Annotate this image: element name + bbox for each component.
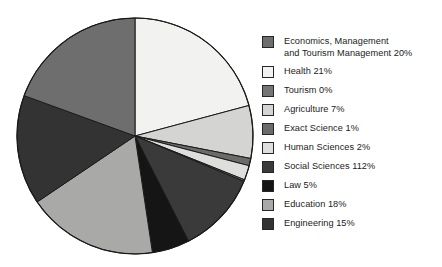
legend-swatch-wrap [262,64,284,78]
legend-item-label: Economics, Management and Tourism Manage… [284,34,412,60]
legend-swatch-economics [262,36,274,48]
legend-item-label: Social Sciences 112% [284,159,375,172]
legend-swatch-tourism [262,85,274,97]
legend-swatch-law [262,180,274,192]
legend-item-label: Law 5% [284,178,317,191]
legend-item[interactable]: Tourism 0% [262,83,442,102]
legend-swatch-engineering [262,218,274,230]
legend-swatch-wrap [262,178,284,192]
legend-swatch-agriculture [262,104,274,116]
legend-item[interactable]: Economics, Management and Tourism Manage… [262,34,442,64]
pie-slice-group [17,18,253,254]
legend-item-label: Agriculture 7% [284,102,344,115]
legend-swatch-social-sciences [262,161,274,173]
legend-swatch-wrap [262,159,284,173]
legend-item-label: Exact Science 1% [284,121,359,134]
legend-item[interactable]: Social Sciences 112% [262,159,442,178]
legend-item[interactable]: Law 5% [262,178,442,197]
pie-chart-plot-area [0,0,262,267]
legend-swatch-wrap [262,83,284,97]
legend-swatch-wrap [262,197,284,211]
legend-item-label: Education 18% [284,197,346,210]
chart-legend: Economics, Management and Tourism Manage… [262,34,442,235]
legend-swatch-human-sciences [262,142,274,154]
legend-swatch-wrap [262,34,284,48]
legend-item[interactable]: Exact Science 1% [262,121,442,140]
legend-item-label: Tourism 0% [284,83,333,96]
pie-chart-svg [0,0,262,267]
legend-item[interactable]: Education 18% [262,197,442,216]
legend-swatch-exact-science [262,123,274,135]
legend-swatch-wrap [262,216,284,230]
legend-item[interactable]: Agriculture 7% [262,102,442,121]
legend-item-label: Human Sciences 2% [284,140,370,153]
legend-swatch-wrap [262,102,284,116]
legend-swatch-health [262,66,274,78]
legend-swatch-wrap [262,140,284,154]
legend-item-label: Health 21% [284,64,332,77]
legend-item[interactable]: Human Sciences 2% [262,140,442,159]
legend-item-label: Engineering 15% [284,216,355,229]
legend-item[interactable]: Engineering 15% [262,216,442,235]
legend-item[interactable]: Health 21% [262,64,442,83]
legend-swatch-wrap [262,121,284,135]
pie-chart-figure: Economics, Management and Tourism Manage… [0,0,442,267]
legend-swatch-education [262,199,274,211]
